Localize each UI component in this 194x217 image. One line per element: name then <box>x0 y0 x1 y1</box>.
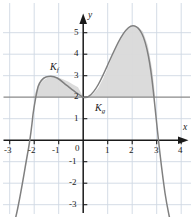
x-axis-label: x <box>183 123 187 133</box>
x-tick-label-2: 2 <box>129 146 134 155</box>
curve-label-kg-main: K <box>95 102 102 113</box>
y-axis-label: y <box>88 11 92 21</box>
y-tick-label-neg1: -1 <box>69 157 77 166</box>
y-tick-label-2: 2 <box>74 92 79 101</box>
curve-label-kf-main: K <box>50 61 57 72</box>
y-tick-label-5: 5 <box>74 28 79 37</box>
x-tick-label-4: 4 <box>178 146 183 155</box>
x-axis <box>4 136 189 144</box>
x-tick-label-neg1: -1 <box>52 146 60 155</box>
y-tick-label-4: 4 <box>74 49 79 58</box>
origin-label: 0 <box>75 144 80 153</box>
y-tick-label-1: 1 <box>74 114 79 123</box>
shaded-area-right <box>83 26 155 97</box>
curve-label-kf: Kf <box>50 62 59 74</box>
curve-label-kg-sub: g <box>102 107 106 115</box>
x-tick-label-1: 1 <box>105 146 110 155</box>
curve-label-kg: Kg <box>95 103 105 115</box>
y-tick-label-neg2: -2 <box>69 178 77 187</box>
x-tick-label-neg2: -2 <box>28 146 36 155</box>
curve-label-kf-sub: f <box>57 66 59 74</box>
y-tick-label-3: 3 <box>74 71 79 80</box>
function-graph-figure: -3 -2 -1 1 2 3 4 5 4 3 2 1 -1 -2 -3 0 x … <box>0 0 194 217</box>
x-tick-label-3: 3 <box>154 146 159 155</box>
x-tick-label-neg3: -3 <box>4 146 12 155</box>
y-tick-label-neg3: -3 <box>69 200 77 209</box>
